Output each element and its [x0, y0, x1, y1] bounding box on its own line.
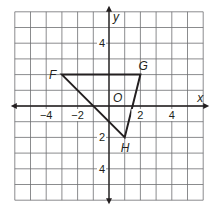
- x-axis-label: x: [196, 91, 204, 105]
- x-axis-left-arrow-icon: [11, 103, 17, 109]
- y-tick-label: 2: [99, 131, 105, 143]
- x-tick-label: −2: [71, 109, 84, 121]
- axes: [11, 6, 209, 204]
- x-tick-label: −4: [40, 109, 53, 121]
- y-tick-label: 4: [99, 163, 105, 175]
- vertex-label-h: H: [121, 141, 130, 155]
- y-axis-up-arrow-icon: [106, 6, 112, 12]
- origin-label: O: [113, 91, 122, 105]
- y-axis-down-arrow-icon: [106, 198, 112, 204]
- y-tick-label: 4: [99, 37, 105, 49]
- x-axis-right-arrow-icon: [203, 103, 209, 109]
- vertex-label-g: G: [138, 59, 147, 73]
- x-tick-label: 2: [137, 109, 143, 121]
- y-axis-label: y: [112, 10, 120, 24]
- x-tick-label: 4: [169, 109, 175, 121]
- coordinate-plane: −4−224424xyOFGH: [0, 0, 214, 212]
- vertex-label-f: F: [49, 68, 57, 82]
